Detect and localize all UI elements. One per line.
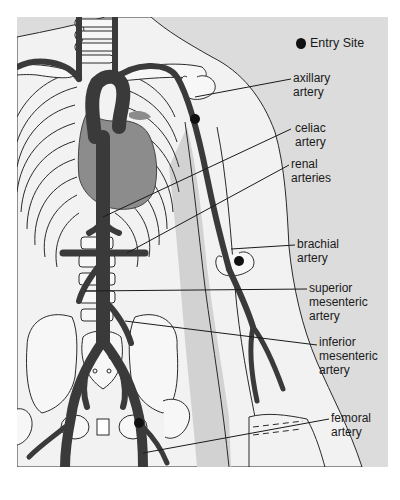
label-superior-mesenteric-artery: superior mesenteric artery [309, 281, 368, 323]
label-brachial-artery: brachial artery [297, 237, 339, 265]
label-inferior-mesenteric-artery: inferior mesenteric artery [319, 335, 378, 377]
entry-site-axillary [190, 114, 200, 124]
label-renal-arteries: renal arteries [291, 157, 331, 185]
label-celiac-artery: celiac artery [295, 121, 326, 149]
legend-label: Entry Site [310, 36, 364, 50]
entry-site-brachial [234, 256, 244, 266]
entry-site-femoral [134, 418, 144, 428]
entry-site-legend-icon [296, 38, 306, 49]
label-femoral-artery: femoral artery [331, 411, 371, 439]
arterial-access-diagram: Entry Site axillary artery celiac artery… [17, 17, 388, 467]
label-axillary-artery: axillary artery [293, 71, 330, 99]
legend: Entry Site [296, 36, 364, 50]
